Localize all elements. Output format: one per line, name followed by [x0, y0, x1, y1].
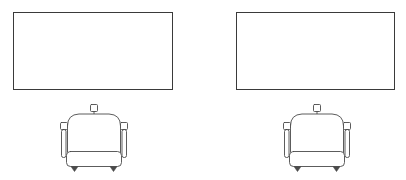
armchair-left [61, 105, 128, 172]
chair-backrest-left [68, 114, 121, 156]
workstation-group-left [14, 13, 173, 172]
chair-right-arm-cap-left [121, 123, 128, 130]
chair-knob-right [314, 105, 321, 112]
table-rectangle-left [14, 13, 173, 90]
chair-right-arm-post-left [122, 130, 127, 158]
chair-foot-right-2 [333, 167, 340, 172]
chair-left-arm-cap-right [284, 123, 291, 130]
chair-foot-left-1 [71, 167, 78, 172]
chair-backrest-right [291, 114, 344, 156]
chair-seat-cushion-right [290, 152, 345, 167]
chair-left-arm-cap-left [61, 123, 68, 130]
workstation-group-right [237, 13, 395, 172]
chair-foot-left-2 [110, 167, 117, 172]
chair-right-arm-cap-right [344, 123, 351, 130]
chair-foot-right-1 [294, 167, 301, 172]
chair-knob-left [91, 105, 98, 112]
chair-left-arm-post-right [285, 130, 290, 158]
table-rectangle-right [237, 13, 395, 90]
chair-seat-cushion-left [67, 152, 122, 167]
chair-left-arm-post-left [62, 130, 67, 158]
chair-right-arm-post-right [345, 130, 350, 158]
drawing-canvas [0, 0, 406, 180]
armchair-right [284, 105, 351, 172]
line-drawing-svg [0, 0, 406, 180]
